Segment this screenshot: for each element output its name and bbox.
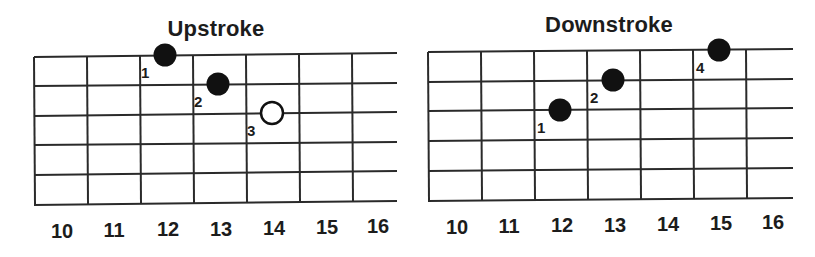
fret-line: [640, 50, 641, 199]
fret-line: [746, 49, 747, 198]
note-dot-filled: [602, 69, 625, 92]
finger-label: 1: [537, 119, 545, 136]
string-line: [428, 49, 793, 52]
finger-label: 2: [590, 89, 598, 106]
note-dot-filled: [708, 39, 731, 62]
fret-line: [693, 50, 694, 198]
fret-number: 15: [710, 212, 732, 235]
string-line: [428, 138, 793, 141]
fret-number: 16: [762, 211, 784, 234]
fret-line: [587, 51, 588, 199]
fret-line: [534, 51, 535, 200]
fret-number: 10: [446, 216, 468, 239]
downstroke-fretboard: [0, 0, 815, 257]
string-line: [428, 108, 793, 111]
fret-number: 14: [657, 213, 679, 236]
note-dot-filled: [549, 99, 572, 122]
fret-line: [428, 52, 429, 201]
fret-number: 13: [604, 214, 626, 237]
finger-label: 4: [696, 59, 704, 76]
fret-number: 11: [498, 215, 519, 238]
fret-line: [481, 52, 482, 200]
fret-number: 12: [551, 214, 573, 237]
downstroke-diagram: Downstroke 1 2 4 10 11 12 13 14 15 16: [0, 0, 815, 257]
